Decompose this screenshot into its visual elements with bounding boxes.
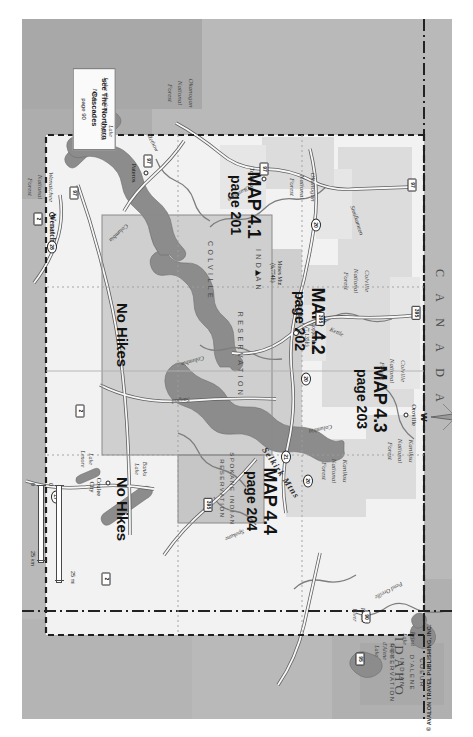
highway-shield-20-a[interactable]: 20 <box>311 218 321 231</box>
label-pateros: Pateros <box>130 163 137 182</box>
scale-tick-km-0 <box>37 485 46 486</box>
highway-shield-97-b[interactable]: 97 <box>259 162 268 175</box>
label-banks-lake: BanksLake <box>132 461 148 476</box>
compass-rose: N E S W <box>429 390 452 444</box>
city-dot-coulee-city <box>105 480 110 485</box>
copyright-notice: © AVALON TRAVEL PUBLISHING, INC. <box>426 624 432 731</box>
label-coeur-dalene-reservation-line2: D'ALENE <box>408 654 415 690</box>
city-dot-tonasket <box>261 176 266 181</box>
label-forest-kaniksu-n: KaniksuNationalForest <box>384 438 416 463</box>
highway-shield-395-c[interactable]: 395 <box>203 497 212 511</box>
scale-bar: 0 25 mi 0 25 km <box>32 485 66 605</box>
no-hikes-label-2: No Hikes <box>113 476 130 540</box>
compass-star-icon <box>429 390 452 444</box>
label-colville: Colville <box>296 298 303 319</box>
no-hikes-label-1: No Hikes <box>113 302 130 366</box>
scale-tick-miles-25 <box>55 580 64 581</box>
highway-shield-97-d[interactable]: 97 <box>69 186 78 199</box>
map-section-4-4[interactable]: MAP 4.4 page 204 <box>244 467 280 534</box>
highway-shield-2-a[interactable]: 2 <box>75 404 84 417</box>
scale-label-miles: 25 mi <box>70 571 76 584</box>
city-dot-oroville <box>403 412 408 417</box>
highway-shield-2-c[interactable]: 2 <box>101 572 110 585</box>
highway-shield-395-b[interactable]: 395 <box>315 311 324 325</box>
highway-shield-2-b[interactable]: 2 <box>33 212 42 225</box>
label-copper-butte: Copper Butte(7,135ft) <box>303 322 316 351</box>
city-dot-colville <box>293 330 299 336</box>
label-forest-wenatchee: WenatcheeNationalForest <box>24 171 56 201</box>
label-colville-reservation-1: COLVILLE <box>205 240 213 300</box>
highway-shield-95[interactable]: 95 <box>355 652 364 665</box>
highway-shield-97-c[interactable]: 97 <box>143 154 152 167</box>
label-forest-okanogan-n: OkanoganNationalForest <box>286 172 318 201</box>
label-coeur-dalene-reservation-line3: INDIAN <box>398 658 405 688</box>
label-lake-chelan: LakeChelan <box>98 122 114 139</box>
highway-shield-21[interactable]: 21 <box>281 450 291 463</box>
scale-label-km: 25 km <box>30 551 36 566</box>
label-lake-lenore: LakeLenore <box>78 450 94 467</box>
highway-shield-28[interactable]: 28 <box>47 240 57 253</box>
map-section-title: MAP 4.4 <box>259 467 280 534</box>
rotated-sheet: C A N A D A IDAHO MAP 4.1 page 201 MAP 4… <box>0 0 473 737</box>
peak-marker-copper-butte <box>321 334 326 340</box>
label-priest-lake: PriestLake <box>400 631 416 645</box>
label-canada: C A N A D A <box>432 269 446 409</box>
label-forest-colville-w: ColvilleNationalForest <box>340 268 372 293</box>
label-coulee-city: CouleeCity <box>88 477 103 495</box>
label-lake-chelan-nra: Lake ChelanNRA <box>89 77 110 113</box>
map-section-4-1[interactable]: MAP 4.1 page 201 <box>228 171 264 238</box>
scale-label-km-zero: 0 <box>30 483 36 486</box>
map-section-page: page 203 <box>354 365 370 432</box>
scale-bar-km <box>38 485 44 563</box>
label-forest-colville-e: ColvilleNationalForest <box>376 358 408 383</box>
label-coeur-dalene-lake: Coeurd'AleneLake <box>372 642 395 660</box>
highway-shield-97-a[interactable]: 97 <box>407 178 416 191</box>
city-dot-pateros <box>143 170 148 175</box>
scale-bar-miles <box>56 485 62 583</box>
label-forest-okanogan-s: OkanoganNationalForest <box>164 78 196 107</box>
map-canvas: C A N A D A IDAHO MAP 4.1 page 201 MAP 4… <box>22 19 452 719</box>
label-spokane-reservation-line1: SPOKANE INDIAN <box>228 452 235 525</box>
highway-shield-20-b[interactable]: 20 <box>301 372 311 385</box>
highway-shield-90[interactable]: 90 <box>361 610 370 623</box>
label-oroville: Oroville <box>410 404 417 426</box>
label-colville-reservation-3: RESERVATION <box>235 311 243 397</box>
map-page: C A N A D A IDAHO MAP 4.1 page 201 MAP 4… <box>0 0 473 737</box>
scale-label-miles-zero: 0 <box>48 483 54 486</box>
highway-shield-395-a[interactable]: 395 <box>411 305 420 319</box>
compass-label-west: W <box>419 413 429 422</box>
map-section-page: page 204 <box>244 467 260 534</box>
label-spokane-reservation-line2: RESERVATION <box>218 459 225 519</box>
callout-page: page 90 <box>79 78 87 140</box>
map-section-page: page 201 <box>228 171 244 238</box>
label-forest-kaniksu-s: KaniksuNationalForest <box>318 458 350 483</box>
label-coeur-dalene-reservation-line1: COEUR <box>418 658 425 688</box>
label-moses-mtn: Moses Mtn(6,774ft) <box>269 260 282 285</box>
highway-shield-20-c[interactable]: 20 <box>303 474 313 487</box>
peak-marker-moses-mtn <box>255 270 260 276</box>
scale-tick-miles-0 <box>55 485 64 486</box>
scale-tick-km-25 <box>37 560 46 561</box>
label-river-sanpoil: Sanpoil <box>171 395 190 404</box>
